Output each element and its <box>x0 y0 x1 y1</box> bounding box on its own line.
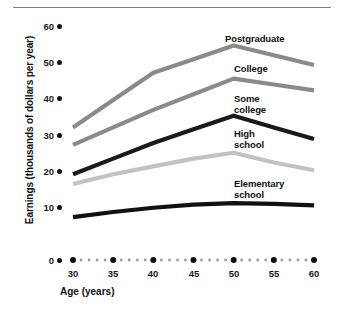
x-axis-major-dot <box>150 257 156 263</box>
x-tick-label-50: 50 <box>221 268 247 279</box>
x-axis-major-dot <box>110 257 116 263</box>
x-axis-dotted-line <box>70 257 317 263</box>
x-tick-label-55: 55 <box>261 268 287 279</box>
x-axis-minor-dot <box>184 259 187 262</box>
x-axis-minor-dot <box>264 259 267 262</box>
x-axis-major-dot <box>70 257 76 263</box>
x-axis-minor-dot <box>240 259 243 262</box>
x-axis-minor-dot <box>289 259 292 262</box>
x-axis-major-dot <box>231 257 237 263</box>
x-tick-label-30: 30 <box>60 268 86 279</box>
x-axis-minor-dot <box>136 259 139 262</box>
x-axis-minor-dot <box>248 259 251 262</box>
x-axis-minor-dot <box>160 259 163 262</box>
x-axis-minor-dot <box>80 259 83 262</box>
x-tick-label-45: 45 <box>181 268 207 279</box>
plot-area <box>0 0 338 311</box>
x-axis-major-dot <box>191 257 197 263</box>
earnings-by-education-chart: 60 50 40 30 20 10 0 30 35 40 45 50 55 60… <box>0 0 338 311</box>
x-axis-minor-dot <box>200 259 203 262</box>
series-label-some-college: Some college <box>234 93 266 115</box>
x-tick-label-35: 35 <box>100 268 126 279</box>
x-axis-minor-dot <box>128 259 131 262</box>
x-tick-label-60: 60 <box>301 268 327 279</box>
x-axis-minor-dot <box>176 259 179 262</box>
x-axis-minor-dot <box>208 259 211 262</box>
x-axis-major-dot <box>311 257 317 263</box>
x-axis-minor-dot <box>96 259 99 262</box>
x-axis-title: Age (years) <box>60 286 114 297</box>
x-axis-major-dot <box>271 257 277 263</box>
x-tick-label-40: 40 <box>140 268 166 279</box>
x-axis-minor-dot <box>305 259 308 262</box>
series-label-college: College <box>234 63 268 74</box>
series-line-college <box>73 79 314 145</box>
series-line-elementary-school <box>73 203 314 217</box>
x-axis-minor-dot <box>224 259 227 262</box>
series-label-elementary-school: Elementary school <box>234 178 284 200</box>
x-axis-minor-dot <box>256 259 259 262</box>
series-line-some-college <box>73 116 314 175</box>
x-axis-minor-dot <box>297 259 300 262</box>
x-axis-minor-dot <box>216 259 219 262</box>
y-axis-title: Earnings (thousands of dollars per year) <box>19 15 35 245</box>
x-axis-minor-dot <box>168 259 171 262</box>
x-axis-minor-dot <box>144 259 147 262</box>
x-axis-minor-dot <box>88 259 91 262</box>
series-label-postgraduate: Postgraduate <box>225 33 285 44</box>
x-axis-minor-dot <box>104 259 107 262</box>
y-axis-title-text: Earnings (thousands of dollars per year) <box>24 36 35 224</box>
x-axis-minor-dot <box>280 259 283 262</box>
series-label-high-school: High school <box>234 128 264 150</box>
x-axis-minor-dot <box>120 259 123 262</box>
